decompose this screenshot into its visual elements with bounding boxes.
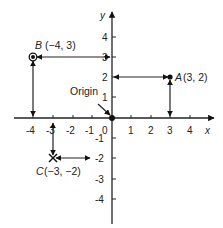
point-b-coords: (−4, 3) [45, 39, 76, 51]
y-tick-label: 1 [102, 92, 108, 103]
origin-pointer-arrow [98, 104, 110, 115]
y-tick-label: -1 [95, 133, 104, 144]
y-tick-label: -4 [95, 194, 104, 205]
y-tick-label: 2 [102, 72, 108, 83]
point-a-name: A [174, 71, 182, 83]
diagram-canvas: -4 -3 -2 -1 0 1 2 3 4 x y 4 3 2 1 -1 -2 … [0, 0, 223, 228]
point-a-dot [167, 74, 172, 79]
y-tick-label: 4 [102, 32, 108, 43]
x-axis-label: x [204, 125, 211, 136]
point-b-dot [31, 55, 35, 59]
origin-label: Origin [70, 85, 98, 97]
point-c-cross [49, 154, 57, 162]
x-tick-label: -2 [66, 125, 75, 136]
x-tick-label: 1 [128, 125, 134, 136]
point-b-name: B [35, 39, 42, 51]
x-tick-label: -3 [46, 125, 55, 136]
x-tick-label: 3 [167, 125, 173, 136]
y-axis-label: y [99, 10, 106, 21]
point-c-name: C [36, 165, 44, 177]
x-tick-label: -1 [85, 125, 94, 136]
coordinate-plane-diagram: -4 -3 -2 -1 0 1 2 3 4 x y 4 3 2 1 -1 -2 … [0, 0, 223, 228]
y-tick-label: -2 [95, 153, 104, 164]
origin-point [109, 115, 115, 121]
point-c: C (−3, −2) [36, 123, 90, 177]
x-tick-label: 4 [187, 125, 193, 136]
point-c-coords: (−3, −2) [44, 165, 81, 177]
x-tick-label: -4 [26, 125, 35, 136]
point-a-coords: (3, 2) [183, 71, 208, 83]
point-a: A (3, 2) [114, 71, 208, 116]
x-tick-label: 2 [148, 125, 154, 136]
y-tick-label: -3 [95, 174, 104, 185]
